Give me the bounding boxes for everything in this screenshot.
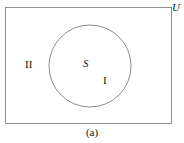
set-s-label: S: [83, 58, 89, 69]
set-diagram-figure: U II S I (a): [0, 0, 184, 143]
venn-diagram-canvas: [0, 0, 184, 143]
figure-caption: (a): [0, 126, 184, 138]
universe-label: U: [172, 2, 180, 13]
region-label-ii: II: [25, 59, 33, 70]
region-label-i: I: [103, 75, 107, 86]
